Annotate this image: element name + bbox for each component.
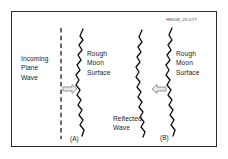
- rough-surface-wavy-line-a: [76, 29, 84, 136]
- figure-diagram: H8K08_23-077 Incoming Plane Wave Rough M…: [0, 0, 228, 159]
- rough-moon-surface-b-line-1: Rough: [176, 49, 199, 58]
- rough-moon-surface-b-line-2: Moon: [176, 58, 199, 67]
- rough-moon-surface-a-line-3: Surface: [87, 68, 110, 77]
- reflected-wave-label: Reflected Wave: [113, 114, 142, 133]
- incoming-plane-wave-line-2: Plane: [21, 63, 49, 72]
- rough-moon-surface-label-a: Rough Moon Surface: [87, 49, 110, 77]
- rough-moon-surface-label-b: Rough Moon Surface: [176, 49, 199, 77]
- panel-a-caption: (A): [70, 134, 79, 143]
- panel-b-caption: (B): [160, 133, 169, 142]
- right-arrow-icon: [63, 85, 77, 94]
- incoming-plane-wave-line-1: Incoming: [21, 54, 49, 63]
- reflected-wave-line-2: Wave: [113, 123, 142, 132]
- reflected-wave-line-1: Reflected: [113, 114, 142, 123]
- incoming-plane-wave-line-3: Wave: [21, 73, 49, 82]
- left-arrow-icon: [152, 85, 166, 94]
- rough-moon-surface-b-line-3: Surface: [176, 68, 199, 77]
- rough-moon-surface-a-line-1: Rough: [87, 49, 110, 58]
- rough-moon-surface-a-line-2: Moon: [87, 58, 110, 67]
- rough-surface-wavy-line-b: [166, 28, 175, 136]
- incoming-plane-wave-label: Incoming Plane Wave: [21, 54, 49, 82]
- figure-id-label: H8K08_23-077: [166, 17, 197, 23]
